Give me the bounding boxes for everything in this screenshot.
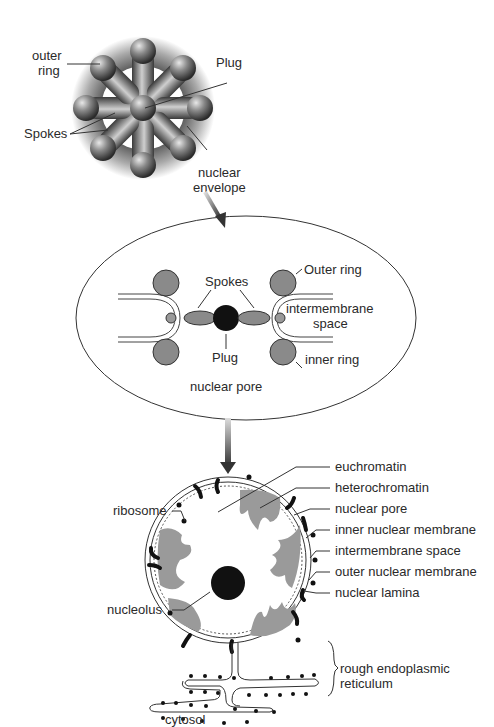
label-intermembrane-1: intermembrane (286, 301, 373, 316)
label-outer-ring-2: ring (38, 63, 60, 78)
label-heterochromatin: heterochromatin (335, 480, 429, 495)
panel-nucleus-cross-section: euchromatin heterochromatin nuclear pore… (107, 459, 477, 727)
panel-nuclear-pore-section: Spokes Outer ring intermembrane space Pl… (76, 216, 416, 420)
outer-ring-right (270, 270, 296, 296)
label-outer-nuclear-membrane: outer nuclear membrane (335, 564, 477, 579)
label-rer-1: rough endoplasmic (340, 661, 450, 676)
label-euchromatin: euchromatin (335, 459, 407, 474)
label-intermembrane-space: intermembrane space (335, 543, 461, 558)
label-nuclear-pore: nuclear pore (335, 501, 407, 516)
label-spokes-2: Spokes (205, 274, 249, 289)
label-intermembrane-2: space (313, 316, 348, 331)
label-cytosol: cytosol (165, 712, 206, 727)
nucleus-diagram: outer ring Plug Spokes nuclear envelope (0, 0, 494, 727)
label-plug: Plug (216, 55, 242, 70)
label-outer-ring-2: Outer ring (304, 262, 362, 277)
label-inner-nuclear-membrane: inner nuclear membrane (335, 522, 476, 537)
label-spokes: Spokes (24, 126, 68, 141)
label-nucleolus: nucleolus (107, 602, 162, 617)
plug-disc (213, 305, 239, 331)
label-nuclear-lamina: nuclear lamina (335, 585, 420, 600)
spoke-left (184, 311, 216, 325)
label-ribosome: ribosome (113, 503, 166, 518)
arrow-down-icon (205, 192, 226, 228)
arrow-down-icon-2 (220, 418, 236, 474)
plug-sphere (130, 95, 156, 121)
inner-ring-left (153, 339, 179, 365)
label-nuclear-envelope-1: nuclear (198, 165, 241, 180)
spoke-right (238, 311, 270, 325)
label-nuclear-pore-caption: nuclear pore (190, 379, 262, 394)
label-nuclear-envelope-2: envelope (193, 180, 246, 195)
outer-ring-left (153, 270, 179, 296)
inner-ring-right (270, 339, 296, 365)
label-outer-ring-1: outer (32, 48, 62, 63)
label-plug-2: Plug (212, 350, 238, 365)
label-inner-ring: inner ring (305, 352, 359, 367)
panel-top-view: outer ring Plug Spokes nuclear envelope (24, 36, 246, 195)
label-rer-2: reticulum (340, 676, 393, 691)
nucleolus-body (211, 566, 245, 600)
rer-brace (328, 641, 338, 696)
